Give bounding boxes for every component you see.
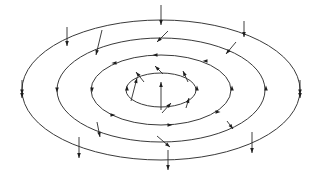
vector-arrow-icon xyxy=(131,78,137,101)
vector-arrow-icon xyxy=(298,80,302,98)
vector-arrow-icon xyxy=(20,80,24,98)
vector-arrow-icon xyxy=(65,27,69,46)
vector-arrows xyxy=(20,5,302,170)
vector-arrow-icon xyxy=(157,31,168,42)
flow-arrow-icon xyxy=(153,53,158,57)
field-line-diagram xyxy=(0,0,317,175)
vector-arrow-icon xyxy=(159,5,163,25)
vector-arrow-icon xyxy=(186,98,189,108)
vector-arrow-icon xyxy=(162,103,171,113)
vector-arrow-icon xyxy=(159,82,163,110)
vector-arrow-icon xyxy=(226,42,236,54)
vector-arrow-icon xyxy=(97,122,101,137)
flow-arrow-icon xyxy=(55,88,59,93)
flow-arrow-icon xyxy=(168,123,173,127)
vector-arrow-icon xyxy=(95,30,102,55)
vector-arrow-icon xyxy=(227,121,233,129)
vector-arrow-icon xyxy=(183,71,188,82)
